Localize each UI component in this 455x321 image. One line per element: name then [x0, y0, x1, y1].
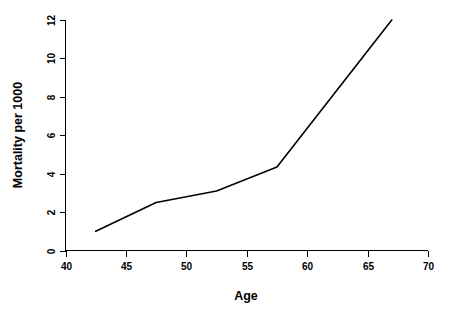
mortality-line — [96, 20, 392, 231]
y-tick-label: 2 — [46, 209, 57, 215]
y-tick-label: 8 — [46, 94, 57, 100]
y-tick-label: 4 — [46, 171, 57, 177]
y-tick-label: 12 — [46, 15, 57, 27]
x-tick-label: 45 — [121, 261, 133, 272]
x-tick-label: 65 — [363, 261, 375, 272]
y-axis-title: Mortality per 1000 — [11, 82, 25, 188]
y-tick-label: 6 — [46, 132, 57, 138]
y-tick-label: 10 — [46, 53, 57, 65]
x-tick-label: 70 — [423, 261, 435, 272]
chart-figure: 024681012 40455055606570 Age Mortality p… — [0, 0, 455, 321]
data-series-group — [96, 20, 392, 231]
y-tick-labels: 024681012 — [46, 15, 57, 255]
x-tick-label: 60 — [302, 261, 314, 272]
x-tick-label: 50 — [181, 261, 193, 272]
y-axis — [60, 20, 66, 252]
x-tick-label: 40 — [61, 261, 73, 272]
x-axis-title: Age — [234, 289, 258, 303]
x-axis — [65, 251, 429, 257]
line-chart-canvas: 024681012 40455055606570 Age Mortality p… — [0, 0, 455, 321]
x-tick-label: 55 — [242, 261, 254, 272]
x-tick-labels: 40455055606570 — [61, 261, 435, 272]
y-tick-marks — [60, 21, 66, 252]
y-tick-label: 0 — [46, 248, 57, 254]
x-tick-marks — [67, 251, 429, 257]
